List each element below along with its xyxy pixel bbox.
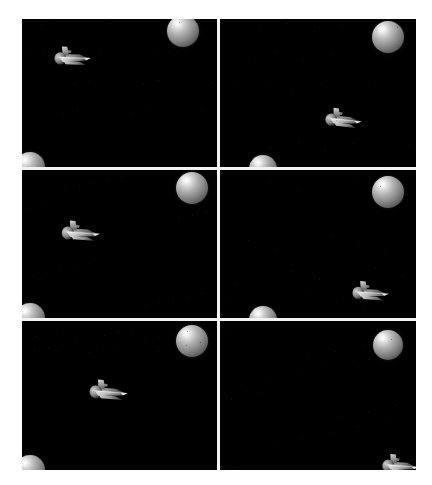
background-noise-speck xyxy=(65,188,66,189)
background-noise-speck xyxy=(353,360,354,361)
background-noise-speck xyxy=(380,186,381,187)
background-noise-speck xyxy=(201,293,202,294)
background-noise-speck xyxy=(325,149,326,150)
background-noise-speck xyxy=(79,185,80,186)
background-noise-speck xyxy=(226,298,227,299)
background-noise-speck xyxy=(397,209,398,210)
planet-sphere-icon xyxy=(22,455,45,470)
background-noise-speck xyxy=(62,344,63,345)
planet-sphere-icon xyxy=(167,19,199,47)
background-noise-speck xyxy=(172,348,173,349)
background-noise-speck xyxy=(336,120,337,121)
background-noise-speck xyxy=(309,112,310,113)
space-shuttle xyxy=(316,94,367,140)
background-noise-speck xyxy=(201,111,202,112)
background-noise-speck xyxy=(385,252,386,253)
background-noise-speck xyxy=(99,52,100,53)
background-noise-speck xyxy=(98,248,99,249)
background-noise-speck xyxy=(146,109,147,110)
background-noise-speck xyxy=(154,54,155,55)
background-noise-speck xyxy=(391,339,392,340)
background-noise-speck xyxy=(112,245,113,246)
background-noise-speck xyxy=(397,27,398,28)
background-noise-speck xyxy=(259,29,260,30)
background-noise-speck xyxy=(41,206,42,207)
background-noise-speck xyxy=(226,333,227,334)
background-noise-speck xyxy=(231,217,232,218)
background-noise-speck xyxy=(297,190,298,191)
background-noise-speck xyxy=(157,80,158,81)
background-noise-speck xyxy=(173,299,174,300)
background-noise-speck xyxy=(303,60,304,61)
background-noise-speck xyxy=(248,58,249,59)
panel-middle-left xyxy=(22,170,217,318)
background-noise-speck xyxy=(186,345,187,346)
planet-sphere-icon xyxy=(176,172,208,204)
space-shuttle xyxy=(343,267,395,314)
background-noise-speck xyxy=(48,347,49,348)
planet-sphere-icon xyxy=(372,176,404,208)
background-noise-speck xyxy=(237,87,238,88)
background-noise-speck xyxy=(214,339,215,340)
background-noise-speck xyxy=(126,242,127,243)
background-noise-speck xyxy=(401,324,402,325)
background-noise-speck xyxy=(159,302,160,303)
background-noise-speck xyxy=(158,351,159,352)
background-noise-speck xyxy=(331,54,332,55)
background-noise-speck xyxy=(121,176,122,177)
background-noise-speck xyxy=(30,53,31,54)
background-noise-speck xyxy=(74,84,75,85)
background-noise-speck xyxy=(231,399,232,400)
background-noise-speck xyxy=(236,283,237,284)
background-noise-speck xyxy=(140,239,141,240)
background-noise-speck xyxy=(236,465,237,466)
background-noise-speck xyxy=(93,182,94,183)
background-noise-speck xyxy=(368,411,369,412)
background-noise-speck xyxy=(77,110,78,111)
background-noise-speck xyxy=(213,353,214,354)
panel-top-right xyxy=(221,19,416,167)
background-noise-speck xyxy=(241,384,242,385)
background-noise-speck xyxy=(274,444,275,445)
background-noise-speck xyxy=(331,236,332,237)
background-noise-speck xyxy=(330,432,331,433)
background-noise-speck xyxy=(63,330,64,331)
background-noise-speck xyxy=(386,420,387,421)
background-noise-speck xyxy=(154,236,155,237)
background-noise-speck xyxy=(192,215,193,216)
background-noise-speck xyxy=(44,50,45,51)
background-noise-speck xyxy=(52,142,53,143)
planet-sphere-icon xyxy=(22,152,45,167)
background-noise-speck xyxy=(34,350,35,351)
background-noise-speck xyxy=(270,147,271,148)
space-shuttle xyxy=(45,31,98,79)
background-noise-speck xyxy=(104,335,105,336)
background-noise-speck xyxy=(298,141,299,142)
background-noise-speck xyxy=(132,329,133,330)
background-noise-speck xyxy=(281,118,282,119)
background-noise-speck xyxy=(264,459,265,460)
background-noise-speck xyxy=(165,25,166,26)
image-montage xyxy=(22,19,416,470)
background-noise-speck xyxy=(258,225,259,226)
background-noise-speck xyxy=(121,141,122,142)
background-noise-speck xyxy=(292,271,293,272)
background-noise-speck xyxy=(396,405,397,406)
background-noise-speck xyxy=(319,279,320,280)
panel-divider-horizontal-2 xyxy=(22,318,416,321)
background-noise-speck xyxy=(135,138,136,139)
planet-sphere-icon xyxy=(372,21,404,53)
panel-middle-right xyxy=(221,170,416,318)
panel-top-left xyxy=(22,19,217,167)
background-noise-speck xyxy=(206,212,207,213)
background-noise-speck xyxy=(132,112,133,113)
background-noise-speck xyxy=(60,269,61,270)
background-noise-speck xyxy=(358,244,359,245)
background-noise-speck xyxy=(88,81,89,82)
background-noise-speck xyxy=(314,213,315,214)
background-noise-speck xyxy=(340,417,341,418)
space-shuttle xyxy=(373,440,416,470)
background-noise-speck xyxy=(302,438,303,439)
background-noise-speck xyxy=(41,24,42,25)
background-noise-speck xyxy=(341,221,342,222)
